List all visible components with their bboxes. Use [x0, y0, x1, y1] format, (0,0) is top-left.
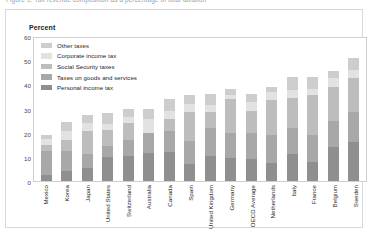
y-axis-ticks: 6050403020100	[8, 37, 31, 182]
segment-personal	[61, 171, 72, 181]
legend-item[interactable]: Personal income tax	[41, 82, 161, 93]
segment-personal	[82, 168, 93, 181]
segment-corporate	[287, 90, 298, 97]
x-tick-label: Canada	[166, 185, 173, 207]
legend-item[interactable]: Taxes on goods and services	[41, 72, 161, 83]
bar-united-kingdom[interactable]	[205, 94, 216, 181]
segment-personal	[328, 147, 339, 181]
segment-corporate	[328, 78, 339, 86]
bar-germany[interactable]	[225, 89, 236, 181]
segment-other	[102, 113, 113, 124]
segment-goods	[348, 112, 359, 142]
bar-switzerland[interactable]	[123, 109, 134, 181]
segment-social	[328, 87, 339, 121]
bar-oecd-average[interactable]	[246, 94, 257, 181]
segment-corporate	[61, 131, 72, 139]
y-tick-label: 40	[11, 82, 31, 89]
x-tick: France	[308, 183, 319, 229]
y-tick-label: 0	[11, 179, 31, 186]
segment-personal	[205, 156, 216, 181]
segment-social	[205, 112, 216, 128]
segment-goods	[205, 128, 216, 156]
segment-other	[205, 94, 216, 105]
x-tick-label: United Kingdom	[207, 185, 214, 229]
segment-corporate	[266, 92, 277, 100]
x-tick: Australia	[143, 183, 154, 229]
segment-personal	[41, 175, 52, 181]
segment-social	[102, 130, 113, 146]
bar-netherlands[interactable]	[266, 87, 277, 181]
x-tick: Italy	[287, 183, 298, 229]
x-tick-label: Sweden	[351, 185, 358, 207]
segment-goods	[143, 133, 154, 154]
chart-page: Figure 1. Tax revenue composition as a p…	[0, 0, 369, 233]
segment-social	[61, 140, 72, 151]
segment-social	[82, 131, 93, 154]
segment-corporate	[143, 119, 154, 132]
bar-korea[interactable]	[61, 122, 72, 181]
legend-item[interactable]: Other taxes	[41, 40, 161, 51]
bar-sweden[interactable]	[348, 58, 359, 181]
legend-item[interactable]: Corporate income tax	[41, 51, 161, 62]
segment-other	[82, 115, 93, 123]
bar-france[interactable]	[307, 77, 318, 181]
segment-social	[266, 100, 277, 135]
segment-other	[61, 122, 72, 132]
segment-goods	[184, 141, 195, 164]
segment-personal	[123, 156, 134, 181]
legend-label: Social Security taxes	[57, 63, 115, 70]
segment-social	[123, 123, 134, 140]
x-tick-label: Spain	[186, 185, 193, 201]
segment-other	[164, 99, 175, 111]
legend-label: Personal income tax	[57, 84, 113, 91]
x-tick-label: Italy	[289, 185, 296, 196]
legend-swatch-icon	[41, 53, 52, 59]
x-tick-label: Belgium	[331, 185, 338, 207]
x-tick: Korea	[60, 183, 71, 229]
legend-item[interactable]: Social Security taxes	[41, 61, 161, 72]
segment-other	[287, 77, 298, 90]
legend-label: Corporate income tax	[57, 52, 116, 59]
x-tick: Switzerland	[122, 183, 133, 229]
legend-label: Other taxes	[57, 42, 89, 49]
x-axis-labels: MexicoKoreaJapanUnited StatesSwitzerland…	[33, 183, 367, 229]
x-tick-label: Mexico	[42, 185, 49, 205]
x-tick: Canada	[164, 183, 175, 229]
segment-personal	[184, 164, 195, 181]
segment-goods	[246, 133, 257, 160]
bar-italy[interactable]	[287, 77, 298, 181]
x-tick-label: France	[310, 185, 317, 204]
segment-goods	[41, 151, 52, 175]
segment-other	[246, 94, 257, 102]
bar-australia[interactable]	[143, 109, 154, 181]
segment-other	[328, 71, 339, 78]
segment-goods	[328, 121, 339, 148]
y-tick-label: 10	[11, 154, 31, 161]
segment-other	[143, 109, 154, 120]
bar-belgium[interactable]	[328, 71, 339, 181]
segment-personal	[143, 153, 154, 181]
segment-corporate	[184, 104, 195, 112]
x-tick: Mexico	[40, 183, 51, 229]
segment-goods	[225, 133, 236, 158]
x-tick: Belgium	[329, 183, 340, 229]
segment-social	[225, 99, 236, 133]
segment-other	[348, 58, 359, 70]
segment-social	[307, 95, 318, 135]
x-tick: United Kingdom	[205, 183, 216, 229]
segment-personal	[246, 159, 257, 181]
bar-spain[interactable]	[184, 95, 195, 181]
bar-japan[interactable]	[82, 115, 93, 181]
bar-mexico[interactable]	[41, 135, 52, 181]
segment-goods	[61, 151, 72, 172]
segment-personal	[225, 158, 236, 181]
legend-swatch-icon	[41, 64, 52, 70]
x-tick-label: OECD Average	[248, 185, 255, 227]
bar-canada[interactable]	[164, 99, 175, 181]
legend-swatch-icon	[41, 43, 52, 49]
x-tick-label: Korea	[62, 185, 69, 202]
segment-corporate	[164, 111, 175, 119]
x-tick: United States	[102, 183, 113, 229]
bar-united-states[interactable]	[102, 113, 113, 181]
segment-other	[307, 77, 318, 89]
